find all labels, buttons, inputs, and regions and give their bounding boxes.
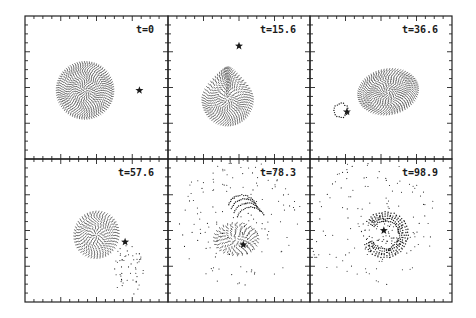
particle-streak <box>235 250 236 252</box>
particle-streak <box>227 122 228 124</box>
particle-streak <box>115 235 118 236</box>
particle-streak <box>220 80 221 82</box>
particle-streak <box>101 241 103 242</box>
particle-streak <box>410 75 412 76</box>
particle-streak <box>103 239 106 240</box>
debris-particle <box>232 177 233 178</box>
debris-particle <box>229 254 230 255</box>
particle-streak <box>100 223 101 225</box>
particle-streak <box>100 69 102 71</box>
particle-streak <box>64 109 65 111</box>
particle-streak <box>231 243 233 244</box>
particle-streak <box>236 86 237 88</box>
particle-streak <box>99 103 100 105</box>
debris-particle <box>385 235 386 236</box>
particle-streak <box>225 245 226 248</box>
debris-particle <box>240 266 241 267</box>
stream-particle <box>395 221 396 222</box>
debris-particle <box>365 268 366 269</box>
particle-streak <box>405 96 407 97</box>
particle-streak <box>108 223 109 226</box>
debris-particle <box>339 173 340 174</box>
particle-streak <box>366 81 367 84</box>
debris-particle <box>205 232 206 233</box>
particle-streak <box>101 249 103 250</box>
debris-particle <box>212 190 213 191</box>
particle-streak <box>233 98 236 99</box>
particle-streak <box>94 256 95 258</box>
stream-particle <box>393 223 394 224</box>
particle-streak <box>112 89 115 90</box>
particle-streak <box>232 103 233 106</box>
particle-streak <box>232 87 233 90</box>
particle-streak <box>239 250 241 252</box>
particle-streak <box>91 116 92 118</box>
particle-streak <box>233 102 234 104</box>
debris-particle <box>374 221 375 222</box>
particle-streak <box>387 87 388 89</box>
particle-streak <box>80 227 83 228</box>
particle-streak <box>372 98 374 100</box>
particle-streak <box>385 82 386 84</box>
particle-streak <box>79 96 81 98</box>
particle-streak <box>245 116 246 118</box>
debris-particle <box>388 233 389 234</box>
debris-particle <box>389 257 390 258</box>
stream-particle <box>394 218 395 219</box>
particle-streak <box>211 102 213 104</box>
particle-streak <box>77 90 79 91</box>
particle-streak <box>94 220 96 221</box>
particle-streak <box>103 92 105 93</box>
particle-streak <box>86 83 88 85</box>
particle-streak <box>244 110 245 112</box>
stream-particle <box>237 216 238 217</box>
particle-streak <box>71 67 72 69</box>
particle-streak <box>239 86 241 87</box>
particle-streak <box>215 97 217 98</box>
particle-streak <box>105 71 107 73</box>
particle-streak <box>82 97 83 99</box>
stream-particle <box>392 255 393 256</box>
debris-particle <box>379 261 380 262</box>
particle-streak <box>106 82 109 83</box>
particle-streak <box>218 236 221 237</box>
debris-particle <box>274 184 275 185</box>
debris-particle <box>414 236 415 237</box>
debris-particle <box>125 255 126 256</box>
particle-streak <box>80 231 82 232</box>
particle-streak <box>397 84 399 86</box>
particle-streak <box>255 245 257 247</box>
particle-streak <box>386 68 387 70</box>
debris-particle <box>248 213 249 214</box>
debris-particle <box>369 229 370 230</box>
particle-streak <box>224 88 225 90</box>
particle-streak <box>70 100 72 102</box>
debris-particle <box>367 163 368 164</box>
particle-streak <box>92 232 94 234</box>
particle-streak <box>236 115 237 117</box>
particle-streak <box>363 80 365 82</box>
particle-streak <box>383 105 384 108</box>
particle-streak <box>232 121 233 123</box>
particle-streak <box>105 86 107 87</box>
debris-particle <box>125 245 126 246</box>
particle-streak <box>221 85 223 86</box>
particle-streak <box>100 83 102 84</box>
debris-particle <box>294 201 295 202</box>
stream-particle <box>400 239 401 240</box>
stream-particle <box>397 227 398 228</box>
particle-streak <box>84 76 86 78</box>
debris-particle <box>332 183 333 184</box>
particle-streak <box>96 69 98 70</box>
debris-particle <box>121 273 122 274</box>
particle-streak <box>237 225 238 227</box>
particle-streak <box>358 89 360 90</box>
particle-streak <box>217 114 218 116</box>
particle-streak <box>379 88 381 90</box>
particle-streak <box>246 111 247 113</box>
particle-streak <box>81 228 84 229</box>
particle-streak <box>86 108 87 111</box>
particle-streak <box>223 87 225 88</box>
particle-streak <box>229 71 231 73</box>
debris-particle <box>231 274 232 275</box>
